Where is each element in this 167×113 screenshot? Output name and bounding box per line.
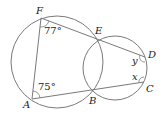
- label-c: C: [146, 83, 154, 94]
- angle-d-value: y: [131, 55, 138, 66]
- geometry-diagram: F E D C B A 77° 75° y x: [0, 0, 167, 113]
- angle-arc-a: [33, 91, 40, 98]
- label-b: B: [88, 95, 96, 106]
- angle-f-value: 77°: [44, 25, 62, 36]
- angle-a-value: 75°: [38, 81, 56, 92]
- label-a: A: [22, 99, 30, 110]
- label-f: F: [35, 5, 44, 16]
- segment-fd: [41, 18, 145, 57]
- angle-c-value: x: [132, 71, 138, 82]
- label-d: D: [147, 49, 156, 60]
- label-e: E: [94, 25, 103, 36]
